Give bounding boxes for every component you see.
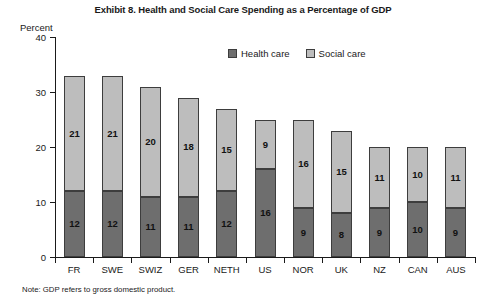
bar-value-health-care: 8 bbox=[339, 230, 344, 240]
bar-segment-health-care[interactable]: 8 bbox=[331, 213, 352, 257]
bar-value-social-care: 20 bbox=[145, 137, 156, 147]
x-axis-tick bbox=[437, 258, 438, 263]
bar-segment-social-care[interactable]: 11 bbox=[369, 147, 390, 208]
bar-stack[interactable]: 119 bbox=[445, 147, 466, 257]
y-axis-tick-label: 0 bbox=[20, 253, 46, 263]
x-axis-label: NOR bbox=[284, 265, 322, 275]
y-axis-tick bbox=[50, 37, 55, 38]
legend-label-social-care: Social care bbox=[319, 48, 366, 59]
bar-value-social-care: 18 bbox=[183, 142, 194, 152]
bar-stack[interactable]: 916 bbox=[255, 120, 276, 258]
bar-stack[interactable]: 1512 bbox=[216, 109, 237, 258]
bar-segment-social-care[interactable]: 10 bbox=[407, 147, 428, 202]
bar-segment-social-care[interactable]: 15 bbox=[216, 109, 237, 192]
chart-legend: Health care Social care bbox=[228, 48, 366, 59]
y-axis-tick-label: 10 bbox=[20, 198, 46, 208]
legend-swatch-social-care-icon bbox=[306, 49, 315, 58]
bar-value-health-care: 16 bbox=[260, 208, 271, 218]
bar-value-social-care: 21 bbox=[107, 129, 118, 139]
bar-segment-social-care[interactable]: 9 bbox=[255, 120, 276, 170]
x-axis-label: FR bbox=[55, 265, 93, 275]
bar-value-health-care: 9 bbox=[377, 228, 382, 238]
bar-segment-health-care[interactable]: 11 bbox=[140, 197, 161, 258]
bar-value-health-care: 9 bbox=[453, 228, 458, 238]
bar-segment-social-care[interactable]: 15 bbox=[331, 131, 352, 214]
bar-segment-health-care[interactable]: 11 bbox=[178, 197, 199, 258]
bar-segment-social-care[interactable]: 21 bbox=[64, 76, 85, 192]
chart-title: Exhibit 8. Health and Social Care Spendi… bbox=[0, 4, 486, 15]
x-axis-tick bbox=[322, 258, 323, 263]
y-axis-tick-label: 30 bbox=[20, 88, 46, 98]
chart-figure: Exhibit 8. Health and Social Care Spendi… bbox=[0, 0, 486, 305]
x-axis-label: CAN bbox=[399, 265, 437, 275]
bar-value-social-care: 15 bbox=[336, 167, 347, 177]
x-axis-tick bbox=[475, 258, 476, 263]
bar-segment-social-care[interactable]: 16 bbox=[293, 120, 314, 208]
bar-segment-social-care[interactable]: 11 bbox=[445, 147, 466, 208]
bar-segment-health-care[interactable]: 16 bbox=[255, 169, 276, 257]
x-axis-label: GER bbox=[170, 265, 208, 275]
bar-value-social-care: 11 bbox=[374, 173, 384, 183]
bar-value-health-care: 11 bbox=[145, 222, 155, 232]
bar-segment-health-care[interactable]: 12 bbox=[102, 191, 123, 257]
bar-value-health-care: 10 bbox=[412, 225, 423, 235]
bar-stack[interactable]: 1811 bbox=[178, 98, 199, 258]
y-axis-tick bbox=[50, 147, 55, 148]
bar-segment-health-care[interactable]: 9 bbox=[445, 208, 466, 258]
bar-value-social-care: 11 bbox=[450, 173, 460, 183]
bar-value-health-care: 11 bbox=[183, 222, 193, 232]
x-axis-tick bbox=[399, 258, 400, 263]
bar-value-social-care: 15 bbox=[221, 145, 232, 155]
bar-stack[interactable]: 158 bbox=[331, 131, 352, 258]
bar-value-social-care: 10 bbox=[412, 170, 423, 180]
x-axis-tick bbox=[208, 258, 209, 263]
x-axis-tick bbox=[360, 258, 361, 263]
x-axis-label: SWIZ bbox=[131, 265, 169, 275]
x-axis-tick bbox=[246, 258, 247, 263]
bar-value-social-care: 16 bbox=[298, 159, 309, 169]
x-axis-tick bbox=[93, 258, 94, 263]
x-axis-label: NZ bbox=[360, 265, 398, 275]
y-axis-tick bbox=[50, 92, 55, 93]
legend-item-health-care: Health care bbox=[228, 48, 290, 59]
bar-value-health-care: 12 bbox=[107, 219, 118, 229]
x-axis-tick bbox=[55, 258, 56, 263]
bar-segment-social-care[interactable]: 18 bbox=[178, 98, 199, 197]
y-axis-line bbox=[55, 37, 56, 258]
bar-segment-health-care[interactable]: 9 bbox=[293, 208, 314, 258]
bar-segment-health-care[interactable]: 12 bbox=[216, 191, 237, 257]
bar-value-health-care: 12 bbox=[221, 219, 232, 229]
x-axis-tick bbox=[170, 258, 171, 263]
bar-stack[interactable]: 1010 bbox=[407, 147, 428, 257]
x-axis-label: AUS bbox=[437, 265, 475, 275]
y-axis-tick-label: 40 bbox=[20, 33, 46, 43]
bar-segment-health-care[interactable]: 9 bbox=[369, 208, 390, 258]
x-axis-tick bbox=[284, 258, 285, 263]
x-axis-label: US bbox=[246, 265, 284, 275]
legend-label-health-care: Health care bbox=[241, 48, 290, 59]
bar-segment-social-care[interactable]: 21 bbox=[102, 76, 123, 192]
bar-stack[interactable]: 2011 bbox=[140, 87, 161, 258]
bar-segment-health-care[interactable]: 12 bbox=[64, 191, 85, 257]
x-axis-line bbox=[55, 257, 476, 258]
y-axis-tick bbox=[50, 202, 55, 203]
chart-note: Note: GDP refers to gross domestic produ… bbox=[22, 285, 175, 294]
bar-stack[interactable]: 169 bbox=[293, 120, 314, 258]
y-axis-tick-label: 20 bbox=[20, 143, 46, 153]
legend-swatch-health-care-icon bbox=[228, 49, 237, 58]
x-axis-tick bbox=[131, 258, 132, 263]
bar-segment-social-care[interactable]: 20 bbox=[140, 87, 161, 197]
bar-stack[interactable]: 119 bbox=[369, 147, 390, 257]
legend-item-social-care: Social care bbox=[306, 48, 366, 59]
bar-value-health-care: 9 bbox=[301, 228, 306, 238]
bar-value-social-care: 9 bbox=[263, 140, 268, 150]
bar-value-social-care: 21 bbox=[69, 129, 80, 139]
bar-stack[interactable]: 2112 bbox=[102, 76, 123, 258]
x-axis-label: NETH bbox=[208, 265, 246, 275]
bar-stack[interactable]: 2112 bbox=[64, 76, 85, 258]
bar-value-health-care: 12 bbox=[69, 219, 80, 229]
x-axis-label: UK bbox=[322, 265, 360, 275]
bar-segment-health-care[interactable]: 10 bbox=[407, 202, 428, 257]
x-axis-label: SWE bbox=[93, 265, 131, 275]
